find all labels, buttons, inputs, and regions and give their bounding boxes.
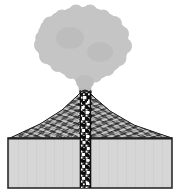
eruption-column-top [76,75,94,89]
volcano-cross-section-svg [0,0,181,195]
volcano-diagram-figure [0,0,181,195]
volcanic-conduit [80,92,91,188]
eruption-column [76,75,94,92]
